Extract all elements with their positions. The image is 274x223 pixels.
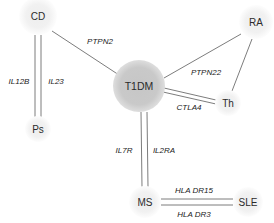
edge-label-il12b: IL12B xyxy=(9,77,31,86)
network-graph: CD RA T1DM Th Ps MS xyxy=(0,0,274,223)
edge-ra-th xyxy=(232,39,252,91)
node-label: SLE xyxy=(239,197,258,208)
edge-line xyxy=(147,112,148,187)
edge-line xyxy=(232,39,252,91)
edge-t1dm-ms xyxy=(141,112,148,187)
node-th[interactable]: Th xyxy=(215,90,241,116)
nodes-layer: CD RA T1DM Th Ps MS xyxy=(19,0,273,218)
node-label: CD xyxy=(31,11,45,22)
edge-label-ptpn2: PTPN2 xyxy=(87,37,113,46)
edge-label-hla-dr3: HLA DR3 xyxy=(177,210,211,219)
diagram-canvas: CD RA T1DM Th Ps MS xyxy=(0,0,274,223)
edge-label-ctla4: CTLA4 xyxy=(177,103,202,112)
edge-line xyxy=(141,112,142,187)
node-sle[interactable]: SLE xyxy=(233,187,263,217)
edge-label-il7r: IL7R xyxy=(116,146,133,155)
node-label: T1DM xyxy=(125,80,154,92)
edges-layer xyxy=(35,31,252,205)
edge-cd-ps xyxy=(35,35,41,117)
edge-ms-sle xyxy=(161,199,233,205)
node-t1dm[interactable]: T1DM xyxy=(113,60,165,112)
edge-label-il2ra: IL2RA xyxy=(153,146,175,155)
node-ra[interactable]: RA xyxy=(239,5,273,39)
edge-label-ptpn22: PTPN22 xyxy=(191,68,222,77)
node-label: Th xyxy=(222,98,234,109)
edge-label-il23: IL23 xyxy=(48,77,64,86)
node-label: MS xyxy=(138,197,153,208)
node-ms[interactable]: MS xyxy=(129,186,161,218)
node-cd[interactable]: CD xyxy=(19,0,57,35)
node-label: RA xyxy=(249,17,263,28)
node-ps[interactable]: Ps xyxy=(25,116,51,142)
node-label: Ps xyxy=(32,124,44,135)
edge-label-hla-dr15: HLA DR15 xyxy=(175,186,213,195)
